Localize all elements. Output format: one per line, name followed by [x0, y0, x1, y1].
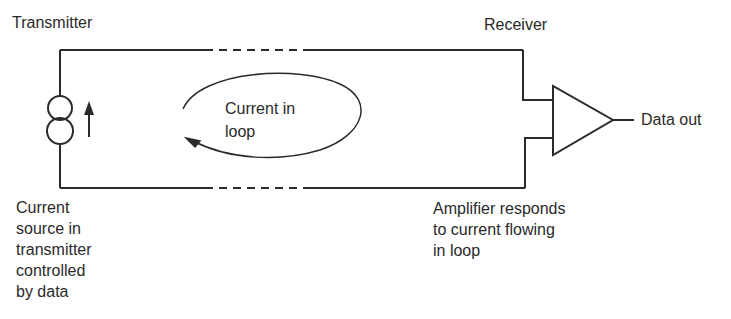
amplifier-caption-line: in loop [433, 241, 480, 260]
source-caption-line: transmitter [16, 240, 92, 259]
source-caption-line: source in [16, 219, 81, 238]
current-loop-diagram: Transmitter Receiver Current in loop Dat… [0, 0, 731, 319]
circuit-drawing [0, 0, 731, 319]
receiver-label: Receiver [484, 15, 547, 34]
data-out-label: Data out [641, 110, 701, 129]
source-caption-line: Current [16, 198, 69, 217]
amplifier-caption-line: Amplifier responds [433, 199, 566, 218]
amplifier-icon [553, 86, 634, 155]
loop-label-line-1: Current in [225, 99, 295, 118]
current-source-icon [47, 50, 73, 188]
loop-label-line-2: loop [225, 122, 255, 141]
current-direction-arrow-icon [84, 101, 94, 137]
source-caption-line: controlled [16, 261, 85, 280]
amplifier-caption-line: to current flowing [433, 220, 555, 239]
transmitter-label: Transmitter [12, 13, 92, 32]
source-caption-line: by data [16, 282, 68, 301]
receiver-wires [523, 50, 553, 188]
